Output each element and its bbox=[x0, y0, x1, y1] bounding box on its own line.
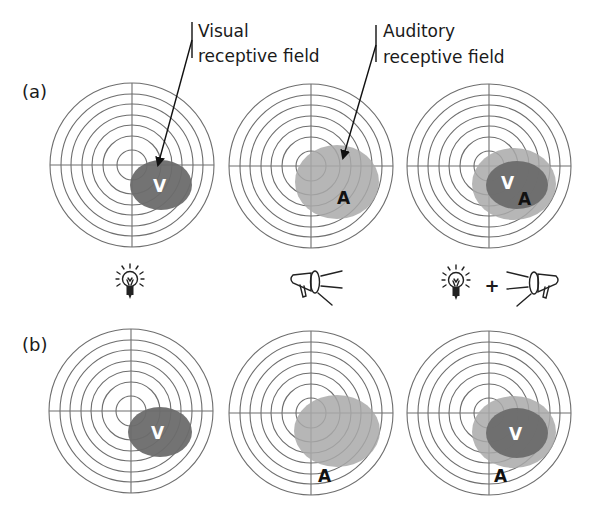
light-ray bbox=[140, 272, 143, 274]
sound-line bbox=[321, 271, 342, 276]
visual-field-label: V bbox=[151, 423, 165, 443]
panel-label-a: (a) bbox=[22, 81, 47, 102]
row-b: VAVA bbox=[49, 329, 571, 495]
light-ray bbox=[117, 284, 120, 286]
caption-visual-line1: Visual bbox=[198, 21, 249, 41]
caption-visual: Visualreceptive field bbox=[158, 21, 320, 165]
light-ray bbox=[122, 266, 124, 269]
light-ray bbox=[140, 284, 143, 286]
caption-auditory-line1: Auditory bbox=[383, 21, 455, 41]
visual-stimulus bbox=[116, 264, 144, 299]
row-a: VAVA bbox=[50, 83, 571, 248]
bulb-tip bbox=[455, 296, 458, 300]
light-ray bbox=[443, 273, 446, 275]
bulb-glass bbox=[123, 272, 138, 287]
light-ray bbox=[136, 266, 138, 269]
pointer-arrow bbox=[158, 40, 192, 165]
bulb-base bbox=[127, 286, 134, 295]
target-a-1: V bbox=[50, 83, 214, 247]
visual-field-label: V bbox=[509, 424, 523, 444]
caption-auditory-line2: receptive field bbox=[383, 47, 505, 67]
visual-field-label: V bbox=[153, 176, 167, 196]
megaphone-icon bbox=[291, 271, 342, 305]
lightbulb-icon bbox=[116, 264, 144, 299]
auditory-field-label: A bbox=[518, 189, 532, 209]
sound-line bbox=[517, 294, 531, 306]
visual-receptive-field bbox=[486, 161, 548, 209]
light-ray bbox=[117, 272, 120, 274]
light-ray bbox=[466, 285, 469, 287]
bulb-tip bbox=[129, 295, 132, 299]
sound-line bbox=[507, 272, 528, 277]
bulb-filament bbox=[127, 278, 133, 285]
target-a-2: A bbox=[229, 84, 393, 248]
bulb-glass bbox=[449, 273, 464, 288]
receptive-field-diagram: (a)(b) VAVAVAVA Visualreceptive fieldAud… bbox=[0, 0, 590, 508]
combined-stimulus: + bbox=[442, 265, 558, 306]
auditory-field-label: A bbox=[494, 466, 508, 486]
stimulus-icons: + bbox=[116, 264, 558, 306]
caption-visual-line2: receptive field bbox=[198, 46, 320, 66]
auditory-field-label: A bbox=[318, 466, 332, 486]
auditory-field-label: A bbox=[337, 188, 351, 208]
bulb-base bbox=[453, 287, 460, 296]
plus-sign: + bbox=[484, 275, 499, 296]
target-b-2: A bbox=[229, 331, 393, 495]
light-ray bbox=[462, 267, 464, 270]
panel-label-b: (b) bbox=[22, 334, 47, 355]
light-ray bbox=[466, 273, 469, 275]
target-b-3: VA bbox=[407, 331, 571, 495]
auditory-stimulus bbox=[291, 271, 342, 305]
pointer-arrow bbox=[343, 45, 376, 158]
light-ray bbox=[443, 285, 446, 287]
megaphone-bell bbox=[311, 271, 320, 293]
visual-field-label: V bbox=[501, 173, 515, 193]
megaphone-icon bbox=[507, 272, 558, 306]
sound-line bbox=[318, 293, 332, 305]
target-b-1: V bbox=[49, 329, 213, 493]
sound-line bbox=[321, 286, 342, 288]
light-ray bbox=[448, 267, 450, 270]
target-a-3: VA bbox=[407, 84, 571, 248]
bulb-filament bbox=[453, 279, 459, 286]
megaphone-bell bbox=[530, 272, 539, 294]
auditory-receptive-field bbox=[294, 395, 380, 467]
lightbulb-icon bbox=[442, 265, 470, 300]
panel-labels: (a)(b) bbox=[22, 81, 47, 355]
sound-line bbox=[507, 287, 528, 289]
